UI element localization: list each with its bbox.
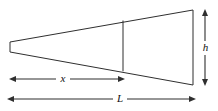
dimension-x-arrowhead-left xyxy=(9,76,16,82)
wedge-outline xyxy=(10,10,193,85)
wedge-diagram-svg: h x L xyxy=(0,0,218,111)
dimension-L: L xyxy=(7,92,196,106)
dimension-x-arrowhead-right xyxy=(118,76,125,82)
dimension-x-label: x xyxy=(60,72,66,84)
geometry-figure: h x L xyxy=(0,0,218,111)
dimension-h-arrowhead-bottom xyxy=(202,79,208,86)
dimension-L-arrowhead-left xyxy=(7,96,14,102)
dimension-h-arrowhead-top xyxy=(202,9,208,16)
dimension-h-label: h xyxy=(203,41,209,53)
dimension-h: h xyxy=(199,9,212,86)
dimension-x: x xyxy=(9,72,125,86)
dimension-L-label: L xyxy=(116,92,123,104)
dimension-L-arrowhead-right xyxy=(189,96,196,102)
